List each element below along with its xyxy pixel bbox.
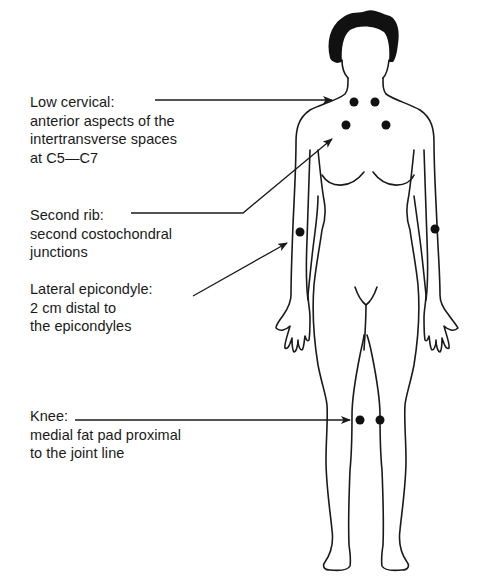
face-outline [383, 60, 389, 78]
tender-point-low-cervical-left [350, 98, 359, 107]
body-outline-right [383, 78, 458, 352]
tender-point-knee-right [376, 416, 385, 425]
hair-shape [329, 10, 399, 63]
tender-point-knee-left [356, 416, 365, 425]
inner-legs-outline [364, 305, 366, 350]
tender-point-second-rib-right [382, 121, 391, 130]
torso-outline-right [367, 150, 419, 570]
chest-outline [322, 172, 364, 185]
tender-point-second-rib-left [342, 121, 351, 130]
tender-point-low-cervical-right [371, 98, 380, 107]
arrow-lateral-epicondyle [193, 243, 287, 296]
groin-outline [355, 287, 377, 305]
face-outline [342, 60, 348, 78]
tender-point-lateral-epicondyle-right [431, 225, 440, 234]
body-figure [0, 0, 485, 586]
tender-point-lateral-epicondyle-left [296, 228, 305, 237]
torso-outline-left [313, 150, 364, 570]
chest-outline [373, 172, 414, 185]
body-outline-left [276, 78, 348, 352]
arrow-second-rib [131, 139, 332, 213]
